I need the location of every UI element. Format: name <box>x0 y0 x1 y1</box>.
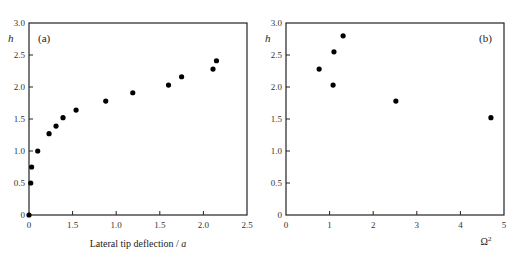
y-tick-label: 0 <box>21 210 26 220</box>
y-tick-label: 1.0 <box>14 146 26 156</box>
chart-panel-a: 01.51.01.52.02.500.51.01.52.02.53.0 h (a… <box>8 18 253 249</box>
panel-label-b: (b) <box>479 32 492 45</box>
y-tick-label: 1.5 <box>271 114 283 124</box>
y-tick-label: 0.5 <box>271 178 283 188</box>
data-point <box>60 115 65 120</box>
x-tick-label: 3 <box>415 220 420 230</box>
y-tick-label: 3.0 <box>271 18 283 28</box>
y-tick-label: 1.0 <box>271 146 283 156</box>
y-tick-label: 2.5 <box>14 50 26 60</box>
y-tick-label: 2.0 <box>271 82 283 92</box>
data-point <box>330 82 335 87</box>
panel-label-a: (a) <box>38 32 51 45</box>
y-tick-label: 0 <box>278 210 283 220</box>
data-point <box>73 107 78 112</box>
y-tick-label: 0.5 <box>14 178 26 188</box>
x-tick-label: 1.5 <box>154 220 166 230</box>
data-point <box>210 66 215 71</box>
x-tick-label: 1.5 <box>67 220 79 230</box>
x-tick-label: 2 <box>371 220 376 230</box>
x-tick-label: 2.0 <box>198 220 210 230</box>
data-point <box>179 74 184 79</box>
plot-frame-b <box>286 23 504 215</box>
data-point <box>35 148 40 153</box>
ticks-b: 01234500.51.01.52.02.53.0 <box>271 18 507 230</box>
data-point <box>53 123 58 128</box>
data-point <box>46 131 51 136</box>
data-point <box>331 49 336 54</box>
y-tick-label: 3.0 <box>14 18 26 28</box>
x-tick-label: 1 <box>327 220 332 230</box>
data-points-b <box>317 33 494 120</box>
data-point <box>26 212 31 217</box>
data-point <box>317 66 322 71</box>
x-axis-label-b-sup: 2 <box>488 235 492 243</box>
y-tick-label: 2.5 <box>271 50 283 60</box>
x-tick-label: 1.0 <box>111 220 123 230</box>
x-axis-label-b-main: Ω <box>481 236 488 247</box>
data-point <box>488 115 493 120</box>
data-point <box>130 90 135 95</box>
y-axis-label-b: h <box>265 32 271 44</box>
x-tick-label: 4 <box>458 220 463 230</box>
x-axis-label-a: Lateral tip deflection / a <box>90 238 187 249</box>
x-tick-label: 0 <box>284 220 289 230</box>
x-axis-label-b: Ω2 <box>481 235 492 247</box>
y-axis-label-a: h <box>8 32 14 44</box>
x-tick-label: 0 <box>27 220 32 230</box>
data-point <box>166 82 171 87</box>
y-tick-label: 2.0 <box>14 82 26 92</box>
x-axis-label-a-var: a <box>181 238 186 249</box>
x-tick-label: 5 <box>502 220 507 230</box>
data-point <box>103 98 108 103</box>
data-point <box>341 33 346 38</box>
chart-panel-b: 01234500.51.01.52.02.53.0 h (b) Ω2 <box>265 18 507 247</box>
data-point <box>214 58 219 63</box>
data-points-a <box>26 58 219 217</box>
data-point <box>393 98 398 103</box>
x-axis-label-a-main: Lateral tip deflection / <box>90 238 182 249</box>
data-point <box>28 180 33 185</box>
y-tick-label: 1.5 <box>14 114 26 124</box>
data-point <box>29 164 34 169</box>
ticks-a: 01.51.01.52.02.500.51.01.52.02.53.0 <box>14 18 253 230</box>
x-tick-label: 2.5 <box>241 220 253 230</box>
figure-canvas: 01.51.01.52.02.500.51.01.52.02.53.0 h (a… <box>0 0 517 257</box>
